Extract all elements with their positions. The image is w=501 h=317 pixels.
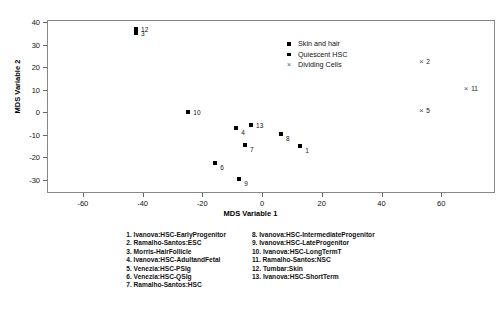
- data-point-square: [186, 110, 190, 114]
- data-point-square: [134, 31, 138, 35]
- x-tick-mark: [322, 193, 323, 197]
- y-tick-label: 0: [22, 108, 40, 117]
- y-tick-label: -30: [22, 175, 40, 184]
- x-tick-label: -20: [197, 199, 208, 208]
- legend-entry: ×Dividing Cells: [284, 60, 348, 69]
- dataset-key-item: 4. Ivanova:HSC-AdultandFetal: [126, 256, 226, 264]
- x-tick-mark: [143, 193, 144, 197]
- x-tick-label: 60: [437, 199, 445, 208]
- legend-cross-icon: ×: [284, 60, 294, 69]
- y-tick-label: 20: [22, 63, 40, 72]
- data-point-cross: ×: [463, 85, 470, 92]
- y-tick-label: 10: [22, 85, 40, 94]
- x-tick-label: -60: [77, 199, 88, 208]
- x-tick-mark: [202, 193, 203, 197]
- y-tick-label: -10: [22, 130, 40, 139]
- legend-square-icon: [284, 39, 294, 48]
- dataset-key-item: 11. Ramalho-Santos:NSC: [252, 256, 375, 264]
- data-point-square: [279, 132, 283, 136]
- dataset-key-item: 10. Ivanova:HSC-LongTermT: [252, 248, 375, 256]
- data-point-label: 6: [220, 163, 224, 170]
- x-tick-mark: [382, 193, 383, 197]
- dataset-key-item: 9. Ivanova:HSC-LateProgenitor: [252, 239, 375, 247]
- dataset-key-item: 6. Venezia:HSC-QSIg: [126, 273, 226, 281]
- dataset-key-item: 8. Ivanova:HSC-IntermediateProgenitor: [252, 231, 375, 239]
- x-tick-mark: [262, 193, 263, 197]
- data-point-square: [243, 143, 247, 147]
- y-axis-label: MDS Variable 2: [13, 27, 22, 147]
- legend-square-icon: [284, 50, 294, 59]
- data-point-label: 1: [305, 146, 309, 153]
- x-tick-label: 40: [377, 199, 385, 208]
- dataset-key-item: 13. Ivanova:HSC-ShortTerm: [252, 273, 375, 281]
- data-point-label: 7: [250, 145, 254, 152]
- x-tick-label: 0: [260, 199, 264, 208]
- data-point-label: 5: [426, 106, 430, 113]
- data-point-label: 8: [286, 135, 290, 142]
- x-axis-label: MDS Variable 1: [0, 209, 501, 218]
- plot-area: 1231041378169×2×11×5 Skin and hairQuiesc…: [47, 20, 495, 193]
- data-point-square: [213, 161, 217, 165]
- data-point-label: 10: [193, 108, 200, 115]
- legend-entry: Quiescent HSC: [284, 50, 348, 59]
- dataset-key: 1. Ivanova:HSC-EarlyProgenitor2. Ramalho…: [0, 231, 501, 290]
- mds-scatter-figure: MDS Variable 2 403020100-10-20-30 -60-40…: [0, 0, 501, 317]
- dataset-key-item: 2. Ramalho-Santos:ESC: [126, 239, 226, 247]
- data-point-label: 13: [256, 122, 263, 129]
- dataset-key-left-column: 1. Ivanova:HSC-EarlyProgenitor2. Ramalho…: [126, 231, 226, 290]
- data-point-square: [298, 144, 302, 148]
- data-point-label: 2: [426, 58, 430, 65]
- data-point-label: 4: [241, 128, 245, 135]
- dataset-key-item: 5. Venezia:HSC-PSIg: [126, 265, 226, 273]
- data-point-label: 9: [244, 180, 248, 187]
- x-tick-mark: [441, 193, 442, 197]
- series-legend: Skin and hairQuiescent HSC×Dividing Cell…: [284, 39, 348, 71]
- data-point-square: [234, 126, 238, 130]
- data-point-square: [237, 177, 241, 181]
- legend-entry-label: Quiescent HSC: [298, 50, 348, 59]
- data-point-square: [134, 27, 138, 31]
- legend-entry-label: Skin and hair: [298, 39, 340, 48]
- data-point-square: [249, 123, 253, 127]
- legend-entry-label: Dividing Cells: [298, 60, 342, 69]
- dataset-key-right-column: 8. Ivanova:HSC-IntermediateProgenitor9. …: [252, 231, 375, 290]
- dataset-key-item: 3. Morris-HairFollicle: [126, 248, 226, 256]
- x-tick-label: -40: [137, 199, 148, 208]
- dataset-key-item: 7. Ramalho-Santos:HSC: [126, 281, 226, 289]
- data-points-layer: 1231041378169×2×11×5: [48, 21, 494, 192]
- legend-entry: Skin and hair: [284, 39, 348, 48]
- data-point-label: 11: [471, 85, 478, 92]
- data-point-cross: ×: [418, 106, 425, 113]
- y-tick-label: -20: [22, 153, 40, 162]
- x-tick-mark: [83, 193, 84, 197]
- dataset-key-item: 1. Ivanova:HSC-EarlyProgenitor: [126, 231, 226, 239]
- data-point-label: 3: [141, 30, 145, 37]
- dataset-key-item: 12. Tumbar:Skin: [252, 265, 375, 273]
- x-tick-label: 20: [318, 199, 326, 208]
- y-tick-label: 30: [22, 40, 40, 49]
- data-point-cross: ×: [418, 58, 425, 65]
- y-tick-label: 40: [22, 18, 40, 27]
